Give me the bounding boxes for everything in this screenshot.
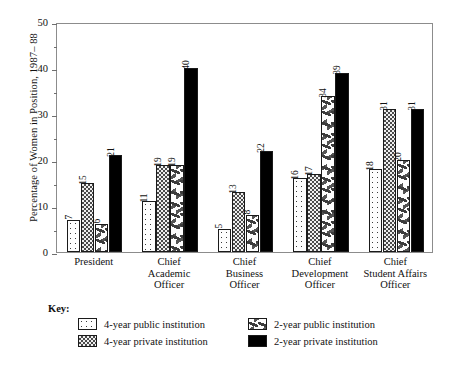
bar-value-label: 15 xyxy=(78,175,88,185)
legend-swatch-dots-icon xyxy=(78,318,97,330)
bar-value-label: 11 xyxy=(140,194,150,203)
x-category-line: Officer xyxy=(207,279,282,291)
bar-value-label: 31 xyxy=(380,102,390,112)
bar-value-label: 8 xyxy=(243,210,253,215)
bar-3-1[interactable]: 5 xyxy=(218,229,231,252)
x-category-line: Chief xyxy=(207,256,282,268)
x-category-line: Officer xyxy=(131,279,206,291)
x-category-line: Officer xyxy=(358,279,433,291)
bar-value-label: 19 xyxy=(168,157,178,167)
bar-value-label: 6 xyxy=(92,219,102,224)
bar-value-label: 5 xyxy=(215,224,225,229)
legend-swatch-dash-icon xyxy=(248,318,267,330)
legend-items: 4-year public institution2-year public i… xyxy=(48,318,448,352)
bar-4-2[interactable]: 17 xyxy=(307,174,320,252)
bar-value-label: 7 xyxy=(64,214,74,219)
bar-1-3[interactable]: 6 xyxy=(95,224,108,252)
bar-value-label: 17 xyxy=(304,166,314,176)
bar-4-3[interactable]: 34 xyxy=(321,96,334,252)
bar-3-2[interactable]: 13 xyxy=(232,192,245,252)
bar-group-4: 16173439 xyxy=(283,24,358,252)
bar-3-3[interactable]: 8 xyxy=(246,215,259,252)
bar-5-3[interactable]: 20 xyxy=(397,160,410,252)
y-tick-label: 40 xyxy=(24,63,48,74)
x-category-line: Officer xyxy=(282,279,357,291)
bar-group-2: 11191940 xyxy=(132,24,207,252)
x-category-line: Development xyxy=(282,268,357,280)
x-category-line: Academic xyxy=(131,268,206,280)
bar-value-label: 40 xyxy=(182,60,192,70)
x-category-label-4: ChiefDevelopmentOfficer xyxy=(282,256,357,291)
x-category-label-5: ChiefStudent AffairsOfficer xyxy=(358,256,433,291)
bar-value-label: 21 xyxy=(106,148,116,158)
plot-area: 01020304050 7156211119194051382216173439… xyxy=(56,23,433,253)
legend: Key: 4-year public institution2-year pub… xyxy=(48,303,448,352)
bar-value-label: 16 xyxy=(290,171,300,181)
x-category-label-1: President xyxy=(56,256,131,268)
bar-value-label: 22 xyxy=(257,143,267,153)
y-tick-label: 30 xyxy=(24,109,48,120)
bar-3-4[interactable]: 22 xyxy=(260,151,273,252)
bar-2-1[interactable]: 11 xyxy=(142,201,155,252)
x-category-line: Chief xyxy=(131,256,206,268)
y-tick-mark xyxy=(52,254,57,255)
bar-value-label: 39 xyxy=(332,65,342,75)
bar-4-4[interactable]: 39 xyxy=(335,73,348,252)
bar-1-4[interactable]: 21 xyxy=(109,155,122,252)
x-axis-labels: PresidentChiefAcademicOfficerChiefBusine… xyxy=(56,256,433,302)
bar-group-3: 513822 xyxy=(208,24,283,252)
bar-1-1[interactable]: 7 xyxy=(67,220,80,252)
bar-value-label: 13 xyxy=(229,184,239,194)
legend-label: 4-year private institution xyxy=(104,336,208,347)
y-tick-label: 20 xyxy=(24,155,48,166)
bar-5-4[interactable]: 31 xyxy=(411,109,424,252)
legend-swatch-solid-icon xyxy=(248,335,267,347)
bar-value-label: 31 xyxy=(408,102,418,112)
legend-swatch-check-icon xyxy=(78,335,97,347)
y-tick-label: 10 xyxy=(24,201,48,212)
bar-5-1[interactable]: 18 xyxy=(369,169,382,252)
bar-groups: 715621111919405138221617343918312031 xyxy=(57,24,432,252)
legend-title: Key: xyxy=(48,303,448,314)
bar-value-label: 18 xyxy=(366,161,376,171)
legend-item-4[interactable]: 2-year private institution xyxy=(248,335,378,347)
legend-label: 2-year public institution xyxy=(274,319,375,330)
x-category-label-3: ChiefBusinessOfficer xyxy=(207,256,282,291)
x-category-line: Chief xyxy=(358,256,433,268)
chart-figure: Percentage of Women in Position, 1987– 8… xyxy=(0,0,455,366)
bar-group-5: 18312031 xyxy=(359,24,434,252)
legend-label: 2-year private institution xyxy=(274,336,378,347)
legend-label: 4-year public institution xyxy=(104,319,205,330)
x-category-line: Chief xyxy=(282,256,357,268)
x-category-label-2: ChiefAcademicOfficer xyxy=(131,256,206,291)
bar-2-3[interactable]: 19 xyxy=(170,165,183,252)
legend-item-3[interactable]: 4-year private institution xyxy=(78,335,208,347)
y-tick-label: 0 xyxy=(24,247,48,258)
x-category-line: Student Affairs xyxy=(358,268,433,280)
bar-2-2[interactable]: 19 xyxy=(156,165,169,252)
bar-value-label: 19 xyxy=(154,157,164,167)
y-tick-label: 50 xyxy=(24,17,48,28)
bar-5-2[interactable]: 31 xyxy=(383,109,396,252)
bar-value-label: 20 xyxy=(394,152,404,162)
x-category-line: Business xyxy=(207,268,282,280)
x-category-line: President xyxy=(56,256,131,268)
bar-4-1[interactable]: 16 xyxy=(293,178,306,252)
legend-item-2[interactable]: 2-year public institution xyxy=(248,318,375,330)
bar-2-4[interactable]: 40 xyxy=(184,68,197,252)
bar-value-label: 34 xyxy=(318,88,328,98)
bar-group-1: 715621 xyxy=(57,24,132,252)
legend-item-1[interactable]: 4-year public institution xyxy=(78,318,205,330)
